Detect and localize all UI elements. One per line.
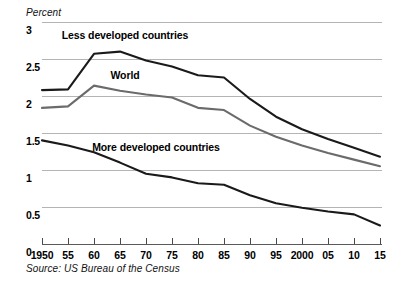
- series-label-more-developed-countries: More developed countries: [92, 141, 220, 153]
- source-note: Source: US Bureau of the Census: [26, 263, 180, 274]
- series-line-world: [42, 86, 380, 167]
- chart-container: Percent 32.521.510.50 195055606570758085…: [0, 0, 399, 283]
- series-label-world: World: [110, 69, 139, 81]
- series-label-less-developed-countries: Less developed countries: [62, 29, 189, 41]
